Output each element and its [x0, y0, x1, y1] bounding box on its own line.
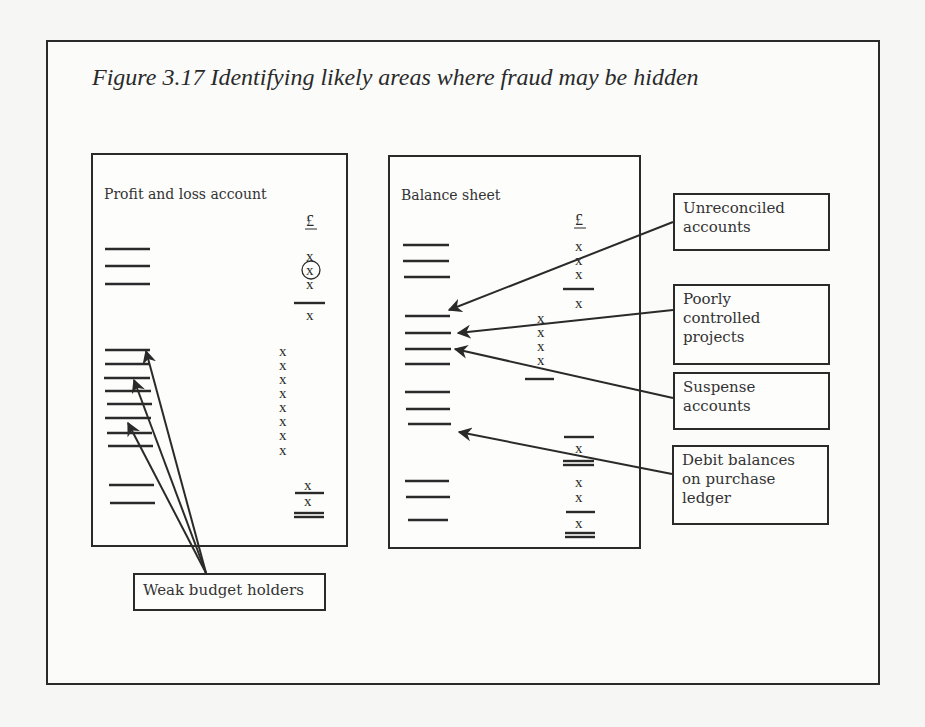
svg-text:x: x: [575, 474, 583, 490]
arrow-poorly-controlled: [458, 310, 673, 333]
profit-loss-figures: £ x x x x x x x x x x x x x x: [279, 212, 320, 509]
pound-symbol-bs: £: [575, 211, 583, 228]
svg-text:x: x: [304, 493, 312, 509]
svg-text:x: x: [575, 266, 583, 282]
svg-text:x: x: [575, 295, 583, 311]
callout-arrows: [128, 222, 673, 573]
arrow-weak-budget-2: [134, 380, 206, 573]
arrow-weak-budget-3: [128, 423, 206, 573]
svg-text:x: x: [279, 442, 287, 458]
svg-text:x: x: [575, 489, 583, 505]
arrow-debit-balances: [459, 432, 672, 474]
svg-text:x: x: [306, 276, 314, 292]
svg-text:x: x: [537, 352, 545, 368]
diagram-drawing: £ x x x x x x x x x x x x x x: [0, 0, 925, 727]
svg-text:x: x: [575, 515, 583, 531]
svg-text:x: x: [306, 307, 314, 323]
svg-text:x: x: [304, 477, 312, 493]
svg-text:x: x: [575, 440, 583, 456]
arrow-weak-budget-1: [146, 351, 206, 573]
pound-symbol-pl: £: [306, 212, 314, 229]
arrow-suspense: [455, 349, 673, 398]
arrow-unreconciled: [449, 222, 673, 310]
balance-sheet-ledger-lines: [403, 245, 595, 537]
svg-text:x: x: [279, 427, 287, 443]
profit-loss-ledger-lines: [104, 249, 325, 517]
